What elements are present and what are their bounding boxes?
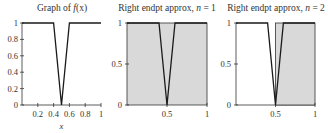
svg-text:1: 1: [227, 18, 231, 28]
svg-text:1: 1: [205, 109, 209, 119]
plot2-title: Right endpt approx, n = 1: [118, 3, 216, 13]
plot3-y-tick-labels: 0 0.5 1: [220, 18, 231, 110]
svg-text:0.2: 0.2: [32, 109, 43, 119]
svg-text:0.5: 0.5: [270, 109, 281, 119]
plot3-rectangle-2: [276, 23, 316, 105]
plot2-x-tick-labels: 0.5 1: [162, 109, 209, 119]
svg-text:0.8: 0.8: [80, 109, 91, 119]
svg-text:0.6: 0.6: [64, 109, 75, 119]
svg-text:0.8: 0.8: [7, 34, 18, 44]
svg-text:0.2: 0.2: [7, 84, 18, 94]
svg-text:0.4: 0.4: [7, 67, 18, 77]
plot1-x-tick-labels: 0.2 0.4 0.6 0.8 1: [32, 109, 103, 119]
plot-right-endpt-n1: Right endpt approx, n = 1 0 0.5 1 0.5 1: [111, 3, 216, 119]
figure: Graph of f(x) 0 0.2 0.4 0.6 0.8 1: [0, 0, 328, 133]
svg-text:0.4: 0.4: [48, 109, 59, 119]
plot3-title: Right endpt approx, n = 2: [227, 3, 325, 13]
plot1-title: Graph of f(x): [37, 3, 87, 14]
plot1-f-curve: [22, 23, 101, 105]
plot-graph-of-f: Graph of f(x) 0 0.2 0.4 0.6 0.8 1: [7, 3, 103, 131]
svg-text:0.5: 0.5: [162, 109, 173, 119]
svg-text:0: 0: [227, 100, 231, 110]
plot-right-endpt-n2: Right endpt approx, n = 2 0 0.5 1 0.5 1: [220, 3, 325, 119]
plot3-x-tick-labels: 0.5 1: [270, 109, 317, 119]
svg-text:1: 1: [99, 109, 103, 119]
svg-text:0.5: 0.5: [111, 59, 122, 69]
svg-text:0: 0: [118, 100, 122, 110]
plot2-rectangle-1: [127, 23, 207, 105]
plot2-y-tick-labels: 0 0.5 1: [111, 18, 122, 110]
svg-text:0.6: 0.6: [7, 51, 18, 61]
svg-text:0.5: 0.5: [220, 59, 231, 69]
plot1-y-tick-labels: 0 0.2 0.4 0.6 0.8 1: [7, 18, 18, 110]
svg-text:1: 1: [313, 109, 317, 119]
svg-text:0: 0: [14, 100, 18, 110]
svg-text:1: 1: [14, 18, 18, 28]
plot1-x-label: x: [59, 121, 64, 131]
svg-text:1: 1: [118, 18, 122, 28]
